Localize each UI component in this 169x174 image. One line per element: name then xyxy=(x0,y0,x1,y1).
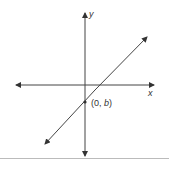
sloped-line xyxy=(95,37,147,90)
point-label-suffix: ) xyxy=(109,98,112,108)
x-axis-label: x xyxy=(148,88,153,98)
point-label: (0, b) xyxy=(91,98,112,108)
coordinate-diagram xyxy=(0,0,169,174)
sloped-line-lower xyxy=(45,90,95,144)
point-label-prefix: (0, xyxy=(91,98,104,108)
y-intercept-point xyxy=(83,100,86,103)
y-axis-label: y xyxy=(89,9,94,19)
bottom-rule xyxy=(0,158,169,159)
